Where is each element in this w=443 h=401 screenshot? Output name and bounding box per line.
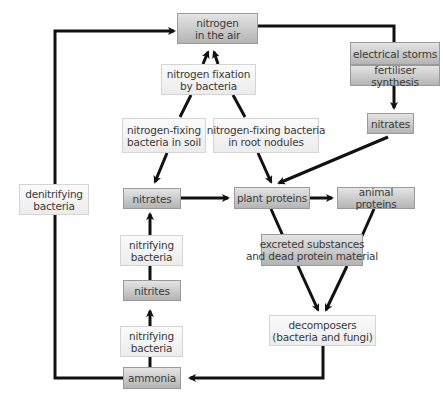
node-label: nitrates <box>371 118 410 130</box>
node-label: nitrogen-fixing bacteria in soil <box>127 124 201 148</box>
node-nitrates-left: nitrates <box>123 188 181 209</box>
node-label: ammonia <box>128 372 176 384</box>
node-nitrogen-fixation: nitrogen fixation by bacteria <box>161 64 256 95</box>
node-decomposers: decomposers (bacteria and fungi) <box>269 315 376 346</box>
node-fertiliser-synthesis: fertiliser synthesis <box>350 65 440 86</box>
node-excreted-substances: excreted substances and dead protein mat… <box>261 234 363 266</box>
node-label: nitrites <box>134 285 169 297</box>
node-label: animal proteins <box>338 186 414 210</box>
node-label: nitrates <box>133 193 172 205</box>
node-soil-bacteria: nitrogen-fixing bacteria in soil <box>122 118 206 153</box>
node-ammonia: ammonia <box>123 367 181 389</box>
node-label: decomposers (bacteria and fungi) <box>272 319 372 343</box>
node-label: fertiliser synthesis <box>351 64 439 88</box>
node-nitrifying-bacteria-upper: nitrifying bacteria <box>120 235 183 266</box>
node-nitrates-right: nitrates <box>367 113 414 134</box>
node-nitrifying-bacteria-lower: nitrifying bacteria <box>120 326 183 357</box>
node-label: excreted substances and dead protein mat… <box>246 238 378 262</box>
node-electrical-storms: electrical storms <box>350 42 440 65</box>
node-denitrifying-bacteria: denitrifying bacteria <box>19 184 89 215</box>
node-nitrogen-air: nitrogen in the air <box>177 13 258 44</box>
node-animal-proteins: animal proteins <box>337 187 415 209</box>
node-label: nitrogen fixation by bacteria <box>167 68 250 92</box>
node-label: denitrifying bacteria <box>25 188 83 212</box>
node-label: nitrifying bacteria <box>129 330 174 354</box>
node-label: nitrogen in the air <box>195 17 240 41</box>
node-label: nitrogen-fixing bacteria in root nodules <box>207 124 326 148</box>
node-nitrites: nitrites <box>123 280 181 301</box>
node-plant-proteins: plant proteins <box>234 187 310 209</box>
node-nodule-bacteria: nitrogen-fixing bacteria in root nodules <box>213 118 319 153</box>
node-label: nitrifying bacteria <box>129 239 174 263</box>
node-label: plant proteins <box>237 192 307 204</box>
node-label: electrical storms <box>353 48 437 60</box>
